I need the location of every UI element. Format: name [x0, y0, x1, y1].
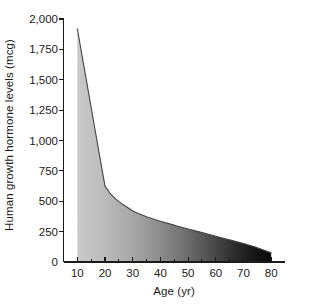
y-tick-label-500: 500	[14, 195, 58, 207]
y-tick-label-250: 250	[14, 226, 58, 238]
chart-figure: Human growth hormone levels (mcg) Age (y…	[0, 0, 310, 307]
y-tick-label-2000: 2,000	[14, 13, 58, 25]
y-tick-label-1000: 1,000	[14, 135, 58, 147]
y-axis-ticks	[59, 19, 64, 232]
data-area-group	[77, 29, 271, 262]
x-tick-label-80: 80	[265, 267, 278, 279]
y-tick-label-750: 750	[14, 165, 58, 177]
x-tick-label-70: 70	[237, 267, 250, 279]
x-tick-label-10: 10	[71, 267, 84, 279]
x-tick-label-50: 50	[182, 267, 195, 279]
hormone-area-fill	[77, 29, 271, 262]
x-tick-label-20: 20	[99, 267, 112, 279]
x-tick-label-40: 40	[154, 267, 167, 279]
y-tick-label-0: 0	[14, 256, 58, 268]
y-tick-label-1500: 1,500	[14, 74, 58, 86]
y-tick-label-1750: 1,750	[14, 43, 58, 55]
x-tick-label-60: 60	[209, 267, 222, 279]
x-tick-label-30: 30	[126, 267, 139, 279]
y-tick-label-1250: 1,250	[14, 104, 58, 116]
